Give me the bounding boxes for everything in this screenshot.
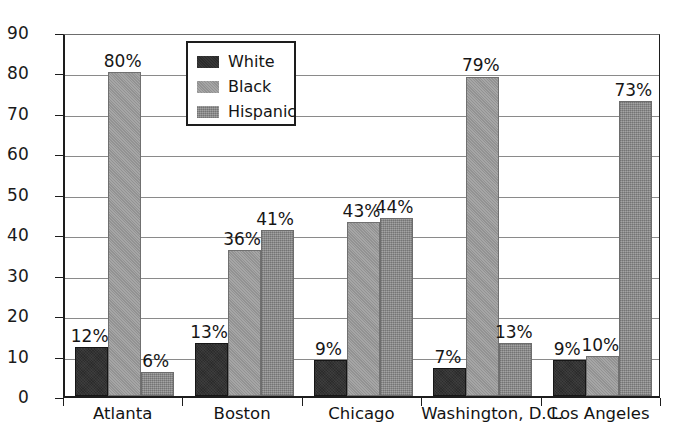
y-axis-tick-label: 90 [0,25,29,42]
bar-value-label: 13% [491,324,536,341]
y-axis-tick-label: 40 [0,227,29,244]
bar [499,343,532,396]
legend-item-label: White [228,54,275,70]
y-axis-tick-label: 10 [0,349,29,366]
bar-value-label: 80% [100,53,145,70]
bar [380,218,413,396]
x-axis-tick-label: Chicago [302,404,421,423]
y-axis-tick-label: 30 [0,268,29,285]
gridline [65,75,659,76]
bar [586,356,619,396]
bar-value-label: 7% [425,349,470,366]
bar-value-label: 12% [67,328,112,345]
y-axis-tick-label: 0 [0,389,29,406]
chart-legend: WhiteBlackHispanic [186,41,296,126]
y-axis-tick-label: 60 [0,146,29,163]
legend-item[interactable]: White [197,49,294,74]
x-axis-tick-mark [660,398,661,406]
x-axis-tick-label: Los Angeles [541,404,660,423]
bar [141,372,174,396]
gridline [65,156,659,157]
bar-chart: 9080706050403020100 12%80%6%13%36%41%9%4… [0,0,697,442]
bar [195,343,228,396]
bar [433,368,466,396]
bar-value-label: 36% [220,231,265,248]
bar [619,101,652,396]
legend-swatch-icon [197,106,219,118]
y-axis-tick-label: 70 [0,106,29,123]
x-axis-tick-label: Washington, D.C. [421,404,540,423]
gridline [65,197,659,198]
bar-value-label: 73% [611,82,656,99]
x-axis-tick-label: Atlanta [63,404,182,423]
legend-item-label: Black [228,79,271,95]
bar [261,230,294,396]
gridline [65,116,659,117]
legend-swatch-icon [197,56,219,68]
bar [108,72,141,396]
y-axis-tick-label: 50 [0,187,29,204]
bar-value-label: 6% [133,353,178,370]
bar [466,77,499,397]
bar-value-label: 79% [458,57,503,74]
bar-value-label: 41% [253,211,298,228]
y-axis-tick-label: 80 [0,65,29,82]
bar [347,222,380,396]
bar [314,360,347,396]
bar [553,360,586,396]
bar [75,347,108,396]
legend-swatch-icon [197,81,219,93]
legend-item-label: Hispanic [228,104,296,120]
bar-value-label: 9% [306,341,351,358]
legend-item[interactable]: Black [197,74,294,99]
bar-value-label: 13% [187,324,232,341]
bar-value-label: 10% [578,337,623,354]
bar [228,250,261,396]
y-axis-tick-label: 20 [0,308,29,325]
legend-item[interactable]: Hispanic [197,99,294,124]
x-axis-tick-label: Boston [182,404,301,423]
bar-value-label: 44% [372,199,417,216]
